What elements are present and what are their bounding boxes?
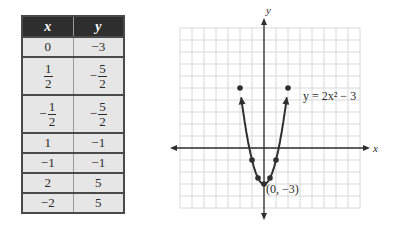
vertex-label: (0, −3) <box>266 182 299 196</box>
equation-label: y = 2x² − 3 <box>303 89 356 103</box>
data-point <box>237 85 243 91</box>
grid <box>180 28 360 208</box>
data-point <box>255 175 261 181</box>
data-point <box>249 157 255 163</box>
data-point <box>273 157 279 163</box>
data-point <box>267 175 273 181</box>
x-axis-label: x <box>372 142 378 154</box>
parabola-graph: x y y = 2x² − 3 (0, −3) <box>0 0 402 228</box>
y-axis-label: y <box>265 4 271 16</box>
data-point <box>285 85 291 91</box>
